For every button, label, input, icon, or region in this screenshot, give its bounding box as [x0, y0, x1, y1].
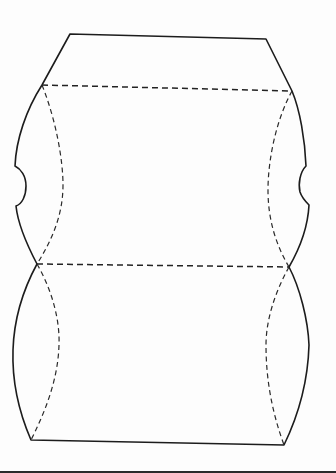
cut-outline: [13, 34, 309, 445]
pillow-box-template-diagram: [0, 0, 336, 473]
left-lower-fold-curve: [31, 264, 59, 440]
template-drawing: [0, 0, 336, 473]
middle-fold-line: [37, 264, 289, 267]
left-upper-fold-curve: [37, 85, 63, 264]
right-lower-fold-curve: [266, 267, 289, 445]
upper-fold-line: [42, 85, 292, 91]
right-upper-fold-curve: [268, 91, 292, 267]
